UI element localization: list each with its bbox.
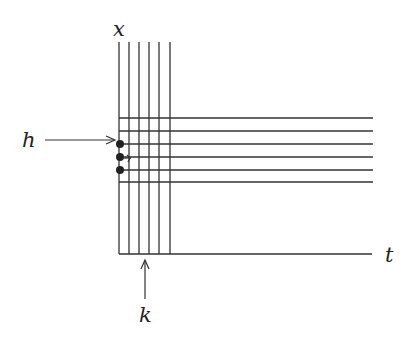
vertical-lines xyxy=(119,42,170,254)
k-arrow xyxy=(141,260,149,299)
point xyxy=(116,153,124,161)
h-label: h xyxy=(22,128,36,152)
horizontal-lines xyxy=(119,118,373,182)
marked-points xyxy=(116,140,124,174)
k-label: k xyxy=(139,303,152,327)
h-arrow xyxy=(45,136,115,144)
point xyxy=(116,166,124,174)
t-axis-label: t xyxy=(385,243,394,267)
grid-diagram: x t h k xyxy=(0,0,418,339)
x-axis-label: x xyxy=(113,17,125,41)
point xyxy=(116,140,124,148)
